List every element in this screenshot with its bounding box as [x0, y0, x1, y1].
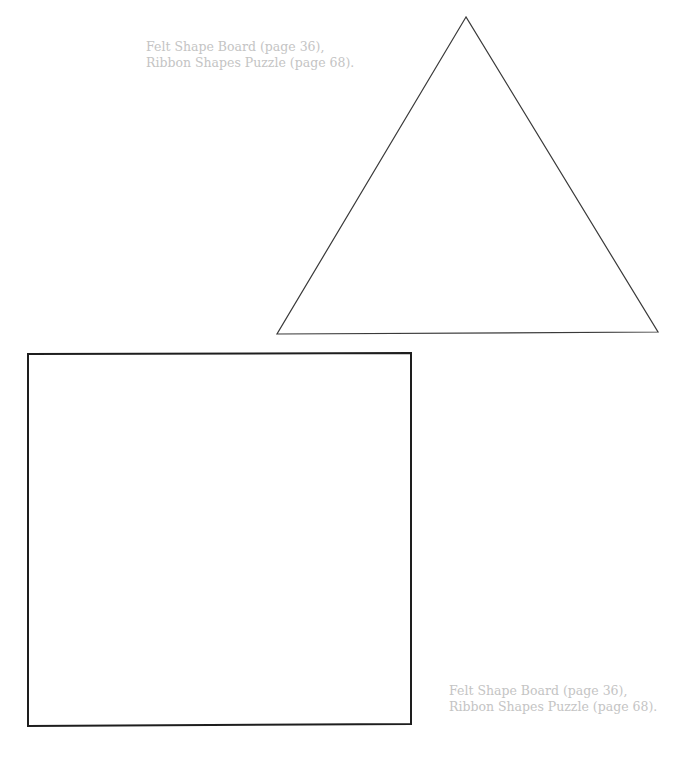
caption-bottom-line-1: Felt Shape Board (page 36), [449, 683, 657, 699]
template-page: Felt Shape Board (page 36), Ribbon Shape… [0, 0, 690, 762]
caption-bottom: Felt Shape Board (page 36), Ribbon Shape… [449, 683, 657, 715]
shape-templates [0, 0, 690, 762]
caption-bottom-line-2: Ribbon Shapes Puzzle (page 68). [449, 699, 657, 715]
triangle-shape [277, 17, 658, 334]
square-shape [28, 353, 411, 726]
